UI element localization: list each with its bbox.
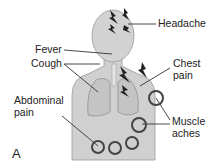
label-chest-pain-2: pain (173, 70, 193, 81)
label-headache: Headache (158, 18, 206, 29)
label-fever: Fever (35, 44, 62, 55)
label-muscle-aches-1: Muscle (172, 116, 205, 127)
panel-label: A (12, 148, 21, 159)
label-cough: Cough (31, 58, 62, 69)
label-abdominal-pain-1: Abdominal (14, 95, 64, 106)
label-muscle-aches-2: aches (172, 128, 200, 139)
label-abdominal-pain-2: pain (14, 107, 34, 118)
trachea (112, 64, 116, 86)
label-chest-pain-1: Chest (173, 58, 200, 69)
